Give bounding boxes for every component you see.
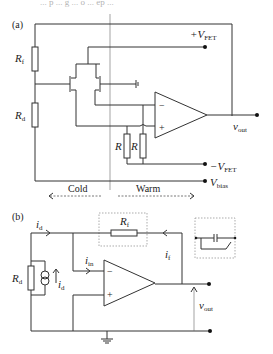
capacitor-switch-icon bbox=[195, 234, 237, 249]
opamp-plus-b: + bbox=[107, 289, 113, 300]
label-vout-a: vout bbox=[233, 120, 247, 134]
vfet-pos-terminal bbox=[203, 45, 207, 49]
caption-fragment: ... p ... g ... o ... ep ... bbox=[40, 0, 114, 7]
label-vbias: Vbias bbox=[210, 176, 228, 190]
resistor-r1 bbox=[124, 134, 130, 158]
label-rd-a: Rd bbox=[14, 109, 26, 123]
opamp-minus: − bbox=[159, 100, 165, 111]
vbias-terminal bbox=[203, 179, 207, 183]
label-vout-b: vout bbox=[199, 299, 213, 313]
label-id-top: id bbox=[36, 218, 43, 232]
panel-b: (b) − + bbox=[11, 211, 236, 343]
label-warm: Warm bbox=[136, 183, 160, 194]
ground-terminal bbox=[208, 329, 212, 333]
jfet-pair-icon bbox=[68, 47, 138, 126]
label-rf-a: Rf bbox=[14, 52, 25, 66]
vout-terminal-b bbox=[207, 282, 211, 286]
vout-terminal-a bbox=[255, 113, 259, 117]
panel-a-label: (a) bbox=[12, 19, 23, 31]
label-r2: R bbox=[130, 140, 138, 152]
opamp-minus-b: − bbox=[107, 266, 113, 277]
resistor-rd bbox=[32, 103, 38, 127]
label-r1: R bbox=[114, 140, 122, 152]
resistor-rf bbox=[32, 47, 38, 71]
label-rf-b: Rf bbox=[119, 215, 130, 229]
label-iin: iin bbox=[85, 254, 94, 268]
panel-b-label: (b) bbox=[12, 211, 24, 223]
vfet-neg-terminal bbox=[203, 162, 207, 166]
ground-icon bbox=[101, 331, 113, 343]
label-rd-b: Rd bbox=[11, 272, 23, 286]
label-if: if bbox=[165, 248, 171, 262]
resistor-r2 bbox=[140, 134, 146, 158]
resistor-rd-b bbox=[28, 266, 34, 290]
label-vfet-neg: −VFET bbox=[210, 160, 237, 174]
resistor-rf-b bbox=[111, 230, 137, 236]
label-cold: Cold bbox=[68, 183, 87, 194]
label-id-source: id bbox=[58, 278, 65, 292]
current-source-icon bbox=[41, 271, 49, 285]
circuit-figure: ... p ... g ... o ... ep ... (a) bbox=[0, 0, 273, 354]
label-vfet-pos: +VFET bbox=[190, 28, 217, 42]
panel-a: (a) bbox=[12, 14, 259, 199]
opamp-plus: + bbox=[159, 122, 165, 133]
